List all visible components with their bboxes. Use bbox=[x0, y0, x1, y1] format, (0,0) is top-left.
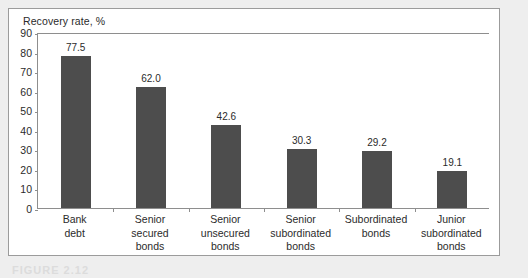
category-label-line: bonds bbox=[263, 240, 338, 254]
x-axis-category-label: Subordinatedbonds bbox=[338, 213, 413, 240]
bar-value-label: 19.1 bbox=[443, 157, 462, 168]
category-label-line: Senior bbox=[188, 213, 263, 227]
y-axis-tick-mark bbox=[35, 132, 38, 133]
category-label-line: bonds bbox=[188, 240, 263, 254]
bar-value-label: 77.5 bbox=[66, 42, 85, 53]
category-label-line: subordinated bbox=[414, 227, 489, 241]
y-axis-tick-mark bbox=[35, 34, 38, 35]
y-axis-tick-label: 80 bbox=[20, 47, 32, 60]
category-label-line: Senior bbox=[112, 213, 187, 227]
x-axis-category-label: Seniorsecuredbonds bbox=[112, 213, 187, 254]
y-axis-tick-mark bbox=[35, 112, 38, 113]
y-axis-tick-mark bbox=[35, 190, 38, 191]
x-axis-tick-mark bbox=[415, 208, 416, 212]
bar-value-label: 62.0 bbox=[141, 73, 160, 84]
figure-caption: FIGURE 2.12 bbox=[12, 264, 89, 278]
bar bbox=[362, 151, 392, 208]
category-label-line: Junior bbox=[414, 213, 489, 227]
x-axis-tick-mark bbox=[264, 208, 265, 212]
bar-group: 30.3 bbox=[264, 34, 339, 208]
x-axis-tick-mark bbox=[339, 208, 340, 212]
category-label-line: debt bbox=[37, 227, 112, 241]
bar-group: 42.6 bbox=[189, 34, 264, 208]
category-label-line: bonds bbox=[338, 227, 413, 241]
figure-panel: Recovery rate, % 77.562.042.630.329.219.… bbox=[8, 8, 500, 256]
bar bbox=[211, 125, 241, 208]
chart-title: Recovery rate, % bbox=[23, 15, 105, 27]
y-axis-tick-label: 40 bbox=[20, 125, 32, 138]
y-axis-tick-mark bbox=[35, 73, 38, 74]
bar bbox=[61, 56, 91, 208]
y-axis-tick-label: 10 bbox=[20, 183, 32, 196]
bar-group: 62.0 bbox=[113, 34, 188, 208]
bars-layer: 77.562.042.630.329.219.1 bbox=[38, 34, 489, 208]
y-axis-tick-label: 20 bbox=[20, 164, 32, 177]
bar bbox=[287, 149, 317, 208]
category-label-line: unsecured bbox=[188, 227, 263, 241]
bar bbox=[136, 87, 166, 208]
y-axis-tick-label: 0 bbox=[26, 203, 32, 216]
x-axis-category-label: Seniorsubordinatedbonds bbox=[263, 213, 338, 254]
y-axis-tick-label: 30 bbox=[20, 144, 32, 157]
bar-value-label: 42.6 bbox=[217, 111, 236, 122]
y-axis-tick-mark bbox=[35, 210, 38, 211]
y-axis-tick-label: 70 bbox=[20, 66, 32, 79]
y-axis-tick-mark bbox=[35, 54, 38, 55]
bar bbox=[437, 171, 467, 208]
x-axis-tick-mark bbox=[189, 208, 190, 212]
x-axis-category-labels: BankdebtSeniorsecuredbondsSeniorunsecure… bbox=[37, 213, 489, 257]
category-label-line: bonds bbox=[112, 240, 187, 254]
category-label-line: Senior bbox=[263, 213, 338, 227]
x-axis-category-label: Juniorsubordinatedbonds bbox=[414, 213, 489, 254]
x-axis-tick-mark bbox=[113, 208, 114, 212]
category-label-line: Subordinated bbox=[338, 213, 413, 227]
bar-value-label: 29.2 bbox=[367, 137, 386, 148]
y-axis-tick-label: 90 bbox=[20, 27, 32, 40]
category-label-line: subordinated bbox=[263, 227, 338, 241]
bar-group: 19.1 bbox=[415, 34, 490, 208]
y-axis-tick-mark bbox=[35, 151, 38, 152]
x-axis-category-label: Seniorunsecuredbonds bbox=[188, 213, 263, 254]
y-axis-tick-label: 50 bbox=[20, 105, 32, 118]
bar-group: 77.5 bbox=[38, 34, 113, 208]
page-root: Recovery rate, % 77.562.042.630.329.219.… bbox=[0, 0, 528, 278]
bar-group: 29.2 bbox=[339, 34, 414, 208]
category-label-line: Bank bbox=[37, 213, 112, 227]
category-label-line: secured bbox=[112, 227, 187, 241]
category-label-line: bonds bbox=[414, 240, 489, 254]
y-axis-tick-mark bbox=[35, 171, 38, 172]
y-axis-tick-mark bbox=[35, 93, 38, 94]
plot-inner: 77.562.042.630.329.219.1 bbox=[38, 34, 489, 208]
y-axis-tick-label: 60 bbox=[20, 86, 32, 99]
bar-value-label: 30.3 bbox=[292, 135, 311, 146]
plot-area: 77.562.042.630.329.219.1 010203040506070… bbox=[37, 33, 489, 209]
x-axis-category-label: Bankdebt bbox=[37, 213, 112, 240]
